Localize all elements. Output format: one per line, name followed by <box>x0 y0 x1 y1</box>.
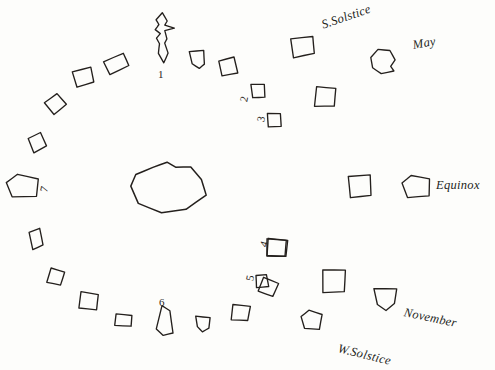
ring-shape <box>323 270 346 293</box>
ring-shape <box>231 305 250 321</box>
ring-shape <box>79 292 98 310</box>
ring-shape <box>6 174 38 197</box>
figure-canvas: S.SolsticeMayEquinoxNovemberW.Solstice 1… <box>0 0 495 370</box>
ring-shape <box>402 176 430 198</box>
ring-shape <box>156 306 173 336</box>
ring-shape <box>374 289 397 311</box>
ring-shape <box>47 268 65 285</box>
ring-shape <box>251 84 265 97</box>
ring-shape <box>155 13 174 63</box>
position-number-label: 1 <box>158 68 164 80</box>
ring-shape-layer <box>6 13 429 336</box>
season-label: Equinox <box>436 178 480 193</box>
ring-shape <box>291 37 315 58</box>
ring-shape <box>301 310 322 329</box>
ring-shape <box>196 316 210 332</box>
ring-shape <box>219 57 238 76</box>
ring-shape <box>29 228 43 249</box>
ring-shape <box>371 49 395 73</box>
center-blob-layer <box>131 162 206 213</box>
ring-shape <box>104 53 129 74</box>
ring-shape <box>348 175 371 198</box>
ring-shape <box>115 314 132 326</box>
center-blob <box>131 162 206 213</box>
ring-shape <box>315 87 336 107</box>
ring-shape <box>28 133 46 153</box>
ring-shape <box>267 113 281 127</box>
ring-shape <box>189 50 204 68</box>
ring-shape <box>44 94 66 115</box>
position-number-label: 6 <box>159 296 165 308</box>
ring-shape <box>72 67 94 87</box>
